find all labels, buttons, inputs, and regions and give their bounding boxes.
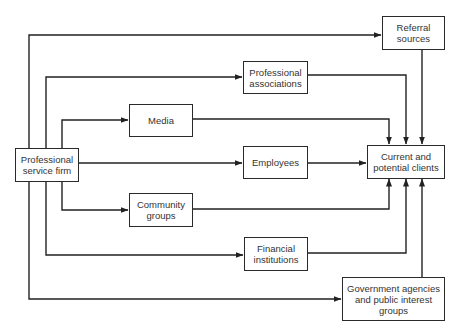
node-label: Employees xyxy=(252,157,299,168)
node-label: Community xyxy=(137,199,185,210)
node-label: service firm xyxy=(21,165,73,176)
node-label: Financial xyxy=(254,243,299,254)
edge-financial-clients xyxy=(307,179,406,253)
node-government-agencies: Government agencies and public interest … xyxy=(342,277,445,321)
edge-firm-referral xyxy=(29,35,381,148)
edge-firm-media xyxy=(62,120,128,148)
node-label: potential clients xyxy=(373,162,438,173)
node-current-potential-clients: Current and potential clients xyxy=(367,145,445,179)
edge-associations-clients xyxy=(307,75,406,144)
node-label: Media xyxy=(148,115,174,126)
node-label: Government agencies xyxy=(347,283,440,294)
node-professional-associations: Professional associations xyxy=(243,61,308,94)
node-professional-service-firm: Professional service firm xyxy=(15,148,79,182)
edge-firm-community xyxy=(62,181,128,210)
node-referral-sources: Referral sources xyxy=(382,16,445,50)
node-label: Professional xyxy=(249,67,301,78)
node-label: institutions xyxy=(254,254,299,265)
node-label: Referral xyxy=(397,22,431,33)
node-community-groups: Community groups xyxy=(129,193,193,227)
edge-community-clients xyxy=(192,179,389,209)
node-label: Professional xyxy=(21,154,73,165)
node-label: groups xyxy=(347,305,440,316)
node-label: groups xyxy=(137,210,185,221)
node-financial-institutions: Financial institutions xyxy=(244,237,308,271)
node-label: sources xyxy=(397,33,431,44)
node-label: associations xyxy=(249,78,301,89)
node-employees: Employees xyxy=(243,146,308,179)
node-label: Current and xyxy=(373,151,438,162)
edge-media-clients xyxy=(192,119,389,144)
node-media: Media xyxy=(129,104,193,137)
node-label: and public interest xyxy=(347,294,440,305)
